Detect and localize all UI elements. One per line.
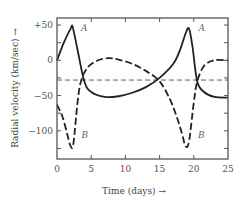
y-tick-label: −50: [34, 91, 53, 101]
x-tick-label: 10: [120, 164, 132, 174]
radial-velocity-chart: 0510152025+500−50−100 ABAB Radial veloci…: [0, 0, 244, 203]
curve-label-b: B: [81, 130, 89, 140]
curve-label-a: A: [198, 23, 206, 33]
curve-label-b: B: [197, 130, 205, 140]
y-tick-label: −100: [28, 126, 53, 136]
x-tick-label: 20: [188, 164, 200, 174]
x-tick-label: 0: [54, 164, 60, 174]
series-a-curve: [57, 25, 228, 97]
y-axis-title: Radial velocity (km/sec) →: [10, 28, 20, 148]
curve-labels: ABAB: [80, 23, 206, 140]
x-tick-label: 25: [222, 164, 234, 174]
y-tick-label: 0: [47, 55, 53, 65]
x-tick-label: 15: [154, 164, 166, 174]
x-tick-label: 5: [88, 164, 94, 174]
x-axis-title: Time (days) →: [102, 186, 166, 196]
curve-label-a: A: [80, 23, 88, 33]
y-tick-label: +50: [34, 20, 53, 30]
